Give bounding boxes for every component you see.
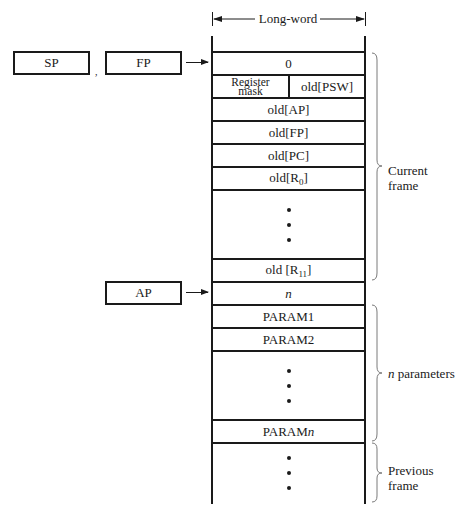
paramn-italic: n [308,424,315,439]
ap-arrow-icon [186,292,208,293]
long-word-label: Long-word [258,11,318,26]
ellipsis-dot [287,471,291,475]
stack-cell-param-ellipsis [213,352,364,419]
current-frame-line2: frame [388,178,428,193]
ap-label: AP [135,285,152,301]
stack-cell-old-ap: old[AP] [213,99,364,120]
old-psw-label: old[PSW] [301,79,353,95]
previous-frame-line1: Previous [388,463,434,478]
previous-frame-label: Previous frame [388,463,434,493]
stack-cell-zero-label: 0 [285,56,292,72]
old-ap-label: old[AP] [268,102,310,118]
sp-register-box: SP [13,51,90,75]
old-r0-label: old[R0] [269,170,307,187]
ellipsis-dot [287,369,291,373]
stack-cell-param2: PARAM2 [213,329,364,350]
ellipsis-dot [287,208,291,212]
stack-cell-old-pc: old[PC] [213,145,364,166]
fp-label: FP [136,55,150,71]
ellipsis-dot [287,456,291,460]
ellipsis-dot [287,384,291,388]
stack-cell-register-mask: Register mask [213,76,288,97]
old-r0-prefix: old[R [269,170,299,185]
paramn-label: PARAMn [263,424,315,440]
stack-cell-n: n [213,283,364,304]
stack-cell-old-psw: old[PSW] [290,76,364,97]
stack-right-border [364,36,366,504]
paramn-prefix: PARAM [263,424,308,439]
n-parameters-text: parameters [395,366,455,381]
n-label: n [285,286,292,302]
param2-label: PARAM2 [263,332,315,348]
previous-frame-line2: frame [388,478,434,493]
register-mask-line2: mask [238,87,262,96]
stack-cell-register-ellipsis [213,191,364,258]
ellipsis-dot [287,238,291,242]
old-r11-label: old [R11] [266,262,312,279]
stack-cell-previous-ellipsis [213,444,364,502]
stack-cell-zero: 0 [213,53,364,74]
old-r0-suffix: ] [303,170,307,185]
sp-label: SP [44,55,58,71]
current-frame-line1: Current [388,163,428,178]
old-pc-label: old[PC] [268,148,309,164]
ellipsis-dot [287,399,291,403]
fp-register-box: FP [105,51,182,75]
dimension-arrows-icon [0,0,466,40]
ellipsis-dot [287,486,291,490]
param1-label: PARAM1 [263,309,315,325]
stack-cell-paramn: PARAMn [213,421,364,442]
old-fp-label: old[FP] [269,125,309,141]
stack-cell-old-r0: old[R0] [213,168,364,189]
register-separator: , [95,64,98,79]
current-frame-label: Current frame [388,163,428,193]
ellipsis-dot [287,223,291,227]
fp-arrow-icon [186,62,208,63]
old-r11-sub: 11 [298,269,307,279]
stack-cell-old-r11: old [R11] [213,260,364,281]
old-r11-suffix: ] [307,262,311,277]
ap-register-box: AP [105,281,182,305]
stack-cell-param1: PARAM1 [213,306,364,327]
n-parameters-label: n parameters [388,366,455,381]
old-r11-prefix: old [R [266,262,299,277]
stack-cell-old-fp: old[FP] [213,122,364,143]
